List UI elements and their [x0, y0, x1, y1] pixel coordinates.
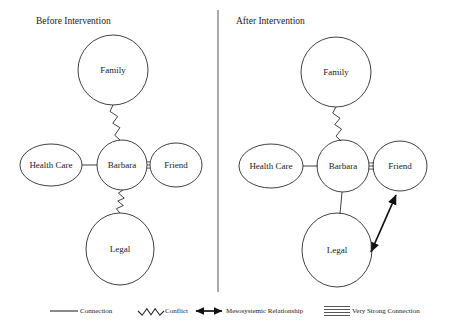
- legend-item-connection: Connection: [50, 307, 113, 315]
- node-after-barbara[interactable]: Barbara: [317, 140, 369, 192]
- edge-mesosystemic-after-legal-friend: [371, 195, 396, 252]
- legend-label: Conflict: [165, 307, 188, 315]
- ecomap-canvas: FamilyHealth CareBarbaraFriendLegalFamil…: [0, 0, 449, 335]
- legend-item-conflict: Conflict: [138, 307, 188, 316]
- node-after-legal[interactable]: Legal: [302, 213, 372, 287]
- node-after-friend[interactable]: Friend: [373, 141, 427, 191]
- edge-conflict-after-family-barbara: [333, 107, 342, 141]
- node-after-family[interactable]: Family: [301, 37, 371, 107]
- node-before-health_care[interactable]: Health Care: [20, 144, 82, 186]
- node-before-legal[interactable]: Legal: [86, 213, 154, 285]
- panel-title-after: After Intervention: [236, 16, 305, 26]
- node-before-barbara[interactable]: Barbara: [97, 140, 147, 190]
- node-label: Legal: [110, 244, 131, 254]
- edges-layer: [82, 105, 396, 252]
- edge-conflict-before-barbara-legal: [116, 190, 124, 213]
- node-label: Legal: [327, 245, 348, 255]
- node-label: Family: [323, 67, 349, 77]
- node-label: Health Care: [249, 161, 292, 171]
- node-label: Friend: [388, 161, 412, 171]
- legend-label: Mesosystemic Relationship: [226, 307, 304, 315]
- ecomap-figure: FamilyHealth CareBarbaraFriendLegalFamil…: [0, 0, 449, 335]
- connection-line: [340, 192, 342, 214]
- conflict-zigzag-icon: [333, 107, 342, 141]
- panel-titles-layer: Before InterventionAfter Intervention: [36, 16, 305, 26]
- edge-conflict-before-family-barbara: [110, 105, 120, 140]
- panel-title-before: Before Intervention: [36, 16, 111, 26]
- legend-label: Connection: [80, 307, 113, 315]
- node-label: Barbara: [108, 160, 136, 170]
- node-before-friend[interactable]: Friend: [150, 143, 202, 187]
- legend-item-mesosystemic: Mesosystemic Relationship: [196, 307, 304, 315]
- conflict-zigzag-icon: [138, 309, 164, 316]
- node-after-health_care[interactable]: Health Care: [239, 144, 303, 188]
- conflict-zigzag-icon: [116, 190, 124, 213]
- node-label: Family: [100, 65, 126, 75]
- mesosystemic-double-arrow-icon: [371, 195, 396, 252]
- node-label: Health Care: [29, 160, 72, 170]
- node-label: Barbara: [329, 161, 357, 171]
- node-label: Friend: [164, 160, 188, 170]
- legend-label: Very Strong Connection: [352, 307, 420, 315]
- edge-connection-after-barbara-legal: [340, 192, 342, 214]
- conflict-zigzag-icon: [110, 105, 120, 140]
- legend-layer: ConnectionConflictMesosystemic Relations…: [50, 307, 420, 316]
- node-before-family[interactable]: Family: [78, 35, 148, 105]
- legend-item-very-strong-connection: Very Strong Connection: [324, 307, 420, 316]
- nodes-layer: FamilyHealth CareBarbaraFriendLegalFamil…: [20, 35, 427, 287]
